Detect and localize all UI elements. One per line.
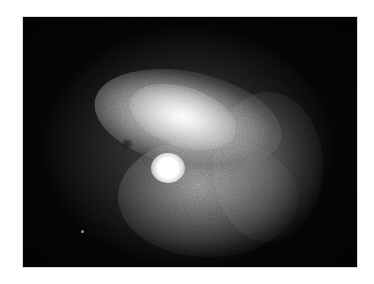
astronomical-image: grayscale astronomical image of a diffus…: [22, 16, 358, 268]
vignette: [23, 17, 357, 267]
